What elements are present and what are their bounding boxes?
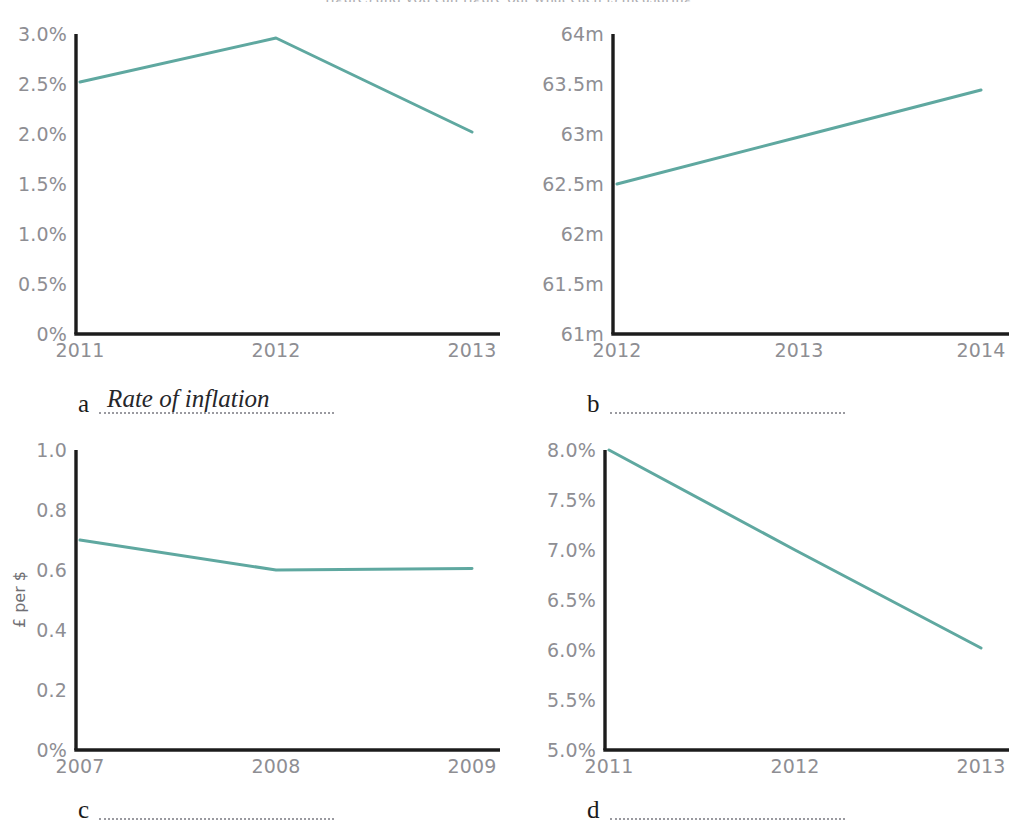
y-tick-label: 3.0% [18,23,67,45]
caption-blank-a[interactable]: Rate of inflation [99,390,334,416]
y-tick-label: 6.0% [547,639,596,661]
caption-blank-d[interactable] [610,796,845,822]
chart-a-plot-area: 0%0.5%1.0%1.5%2.0%2.5%3.0%201120122013 [0,4,510,374]
caption-a: a Rate of inflation [78,386,334,416]
y-tick-label: 1.0% [18,223,67,245]
dotted-rule-a [99,412,334,414]
chart-c-plot-area: 0%0.20.40.60.81.0200720082009£ per $ [0,424,510,790]
chart-panel-a: 0%0.5%1.0%1.5%2.0%2.5%3.0%201120122013 a… [0,4,509,420]
plot-a-svg [0,4,510,374]
cut-off-title-text: figures and you can figure out what each… [0,0,1017,2]
y-tick-label: 0.8 [36,499,67,521]
y-tick-label: 5.5% [547,689,596,711]
caption-blank-b[interactable] [610,390,845,416]
y-tick-label: 0.6 [36,559,67,581]
y-tick-label: 7.0% [547,539,596,561]
dotted-rule-d [610,818,845,820]
x-tick-label: 2008 [251,755,300,777]
caption-c: c [78,792,334,822]
caption-d: d [587,792,845,822]
y-tick-label: 0.4 [36,619,67,641]
caption-answer-a: Rate of inflation [107,386,270,412]
worksheet-page: figures and you can figure out what each… [0,0,1017,827]
y-tick-label: 6.5% [547,589,596,611]
y-tick-label: 62.5m [542,173,604,195]
x-tick-label: 2009 [447,755,496,777]
x-tick-label: 2011 [584,755,633,777]
y-tick-label: 2.0% [18,123,67,145]
x-tick-label: 2011 [55,339,104,361]
caption-b: b [587,386,845,416]
y-tick-label: 62m [561,223,604,245]
x-tick-label: 2007 [55,755,104,777]
x-tick-label: 2014 [956,339,1005,361]
y-tick-label: 7.5% [547,489,596,511]
chart-d-plot-area: 5.0%5.5%6.0%6.5%7.0%7.5%8.0%201120122013 [509,424,1017,790]
x-tick-label: 2012 [592,339,641,361]
y-tick-label: 63m [561,123,604,145]
data-series-line [609,450,981,648]
y-tick-label: 64m [561,23,604,45]
y-tick-label: 2.5% [18,73,67,95]
caption-blank-c[interactable] [99,796,334,822]
y-tick-label: 63.5m [542,73,604,95]
plot-c-svg [0,424,510,790]
x-tick-label: 2013 [774,339,823,361]
caption-letter-b: b [587,391,600,416]
y-axis-title: £ per $ [10,563,29,637]
y-tick-label: 8.0% [547,439,596,461]
caption-letter-a: a [78,391,89,416]
caption-letter-c: c [78,797,89,822]
y-tick-label: 0.2 [36,679,67,701]
x-tick-label: 2012 [251,339,300,361]
dotted-rule-c [99,818,334,820]
x-tick-label: 2013 [447,339,496,361]
chart-panel-b: 61m61.5m62m62.5m63m63.5m64m201220132014 … [509,4,1017,420]
y-tick-label: 1.5% [18,173,67,195]
dotted-rule-b [610,412,845,414]
x-tick-label: 2013 [956,755,1005,777]
x-tick-label: 2012 [770,755,819,777]
chart-panel-c: 0%0.20.40.60.81.0200720082009£ per $ c [0,424,509,827]
y-tick-label: 0.5% [18,273,67,295]
data-series-line [80,38,472,132]
caption-letter-d: d [587,797,600,822]
data-series-line [80,540,472,570]
chart-b-plot-area: 61m61.5m62m62.5m63m63.5m64m201220132014 [509,4,1017,374]
data-series-line [617,90,981,184]
y-tick-label: 1.0 [36,439,67,461]
chart-panel-d: 5.0%5.5%6.0%6.5%7.0%7.5%8.0%201120122013… [509,424,1017,827]
y-tick-label: 61.5m [542,273,604,295]
